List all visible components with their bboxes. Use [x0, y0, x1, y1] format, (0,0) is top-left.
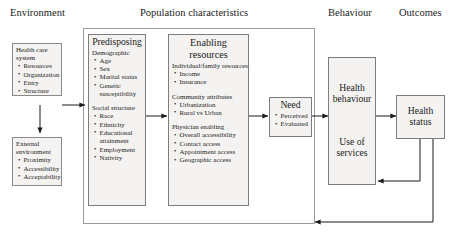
box-health-care-system[interactable]: Health care system Resources Organizatio…	[12, 43, 62, 96]
list-item: Urbanization	[174, 101, 248, 109]
need-title: Need	[270, 100, 311, 111]
enabling-individual-family-list: Income Insurance	[169, 70, 248, 87]
external-environment-list: Proximity Accessibility Acceptability	[13, 156, 61, 181]
box-external-environment[interactable]: External environment Proximity Accessibi…	[12, 137, 62, 186]
list-item: Rural vs Urban	[174, 109, 248, 117]
list-item: Organization	[18, 71, 61, 79]
enabling-resources-title-line1: Enabling	[169, 37, 248, 48]
box-predisposing[interactable]: Predisposing Demographic Age Sex Marital…	[88, 34, 146, 206]
health-care-system-title: Health care system	[13, 46, 61, 62]
list-item: Genetic susceptibility	[94, 82, 145, 99]
enabling-community-attributes-list: Urbanization Rural vs Urban	[169, 101, 248, 118]
list-item: Proximity	[18, 156, 61, 164]
use-of-services-line2: services	[329, 148, 375, 159]
list-item: Evaluated	[275, 120, 311, 128]
predisposing-demographic-list: Age Sex Marital status Genetic susceptib…	[89, 57, 145, 98]
list-item: Resources	[18, 62, 61, 70]
list-item: Perceived	[275, 112, 311, 120]
predisposing-group-heading-demographic: Demographic	[89, 49, 145, 57]
list-item: Overall accessibility	[174, 131, 248, 139]
list-item: Employment	[94, 146, 145, 154]
box-enabling-resources[interactable]: Enabling resources Individual/family res…	[168, 34, 249, 206]
list-item: Appointment access	[174, 148, 248, 156]
list-item: Race	[94, 112, 145, 120]
health-status-line2: status	[397, 117, 444, 128]
enabling-group-heading-physician-enabling: Physician enabling	[169, 123, 248, 131]
health-behaviour-title-line2: behaviour	[329, 94, 375, 105]
enabling-group-heading-individual-family: Individual/family resources	[169, 62, 248, 70]
need-list: Perceived Evaluated	[270, 112, 311, 129]
diagram-canvas: Environment Population characteristics B…	[0, 0, 461, 240]
list-item: Acceptability	[18, 173, 61, 181]
box-health-behaviour[interactable]: Health behaviour Use of services	[328, 57, 376, 185]
enabling-group-heading-community-attributes: Community attributes	[169, 93, 248, 101]
predisposing-social-structure-list: Race Ethnicity Educational attainment Em…	[89, 112, 145, 162]
list-item: Geographic access	[174, 156, 248, 164]
box-need[interactable]: Need Perceived Evaluated	[269, 97, 312, 137]
list-item: Contact access	[174, 140, 248, 148]
list-item: Income	[174, 70, 248, 78]
list-item: Structure	[18, 87, 61, 95]
predisposing-title: Predisposing	[89, 37, 145, 48]
list-item: Educational attainment	[94, 129, 145, 146]
list-item: Accessibility	[18, 165, 61, 173]
list-item: Age	[94, 57, 145, 65]
external-environment-title: External environment	[13, 140, 61, 156]
box-health-status[interactable]: Health status	[396, 95, 445, 139]
list-item: Nativity	[94, 154, 145, 162]
list-item: Sex	[94, 65, 145, 73]
list-item: Entry	[18, 79, 61, 87]
enabling-resources-title-line2: resources	[169, 49, 248, 60]
predisposing-group-heading-social-structure: Social structure	[89, 104, 145, 112]
list-item: Ethnicity	[94, 121, 145, 129]
enabling-physician-list: Overall accessibility Contact access App…	[169, 131, 248, 164]
list-item: Marital status	[94, 73, 145, 81]
list-item: Insurance	[174, 78, 248, 86]
health-care-system-list: Resources Organization Entry Structure	[13, 62, 61, 95]
